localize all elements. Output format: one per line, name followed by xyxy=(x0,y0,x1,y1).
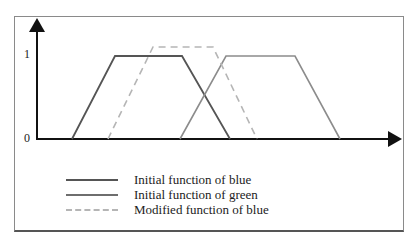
legend-label: Initial function of green xyxy=(134,187,258,202)
legend-swatch-solid xyxy=(66,194,118,196)
legend-swatch-dashed xyxy=(66,209,118,211)
legend-item-initial-green: Initial function of green xyxy=(66,187,269,202)
y-tick-0: 0 xyxy=(24,131,30,146)
legend-item-modified-blue: Modified function of blue xyxy=(66,202,269,217)
legend-swatch-solid xyxy=(66,179,118,181)
legend-label: Modified function of blue xyxy=(134,202,269,217)
legend-item-initial-blue: Initial function of blue xyxy=(66,172,269,187)
legend-label: Initial function of blue xyxy=(134,172,251,187)
series-modified-blue xyxy=(108,47,257,139)
series-initial-blue xyxy=(72,56,230,139)
legend: Initial function of blue Initial functio… xyxy=(66,172,269,217)
series-initial-green xyxy=(180,56,340,139)
y-tick-1: 1 xyxy=(24,47,30,62)
